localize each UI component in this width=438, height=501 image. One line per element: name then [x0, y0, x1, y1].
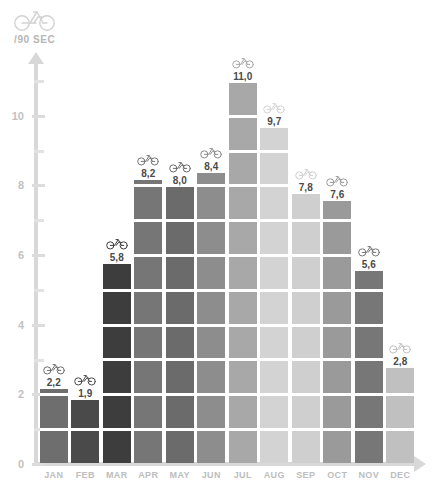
bar-column[interactable]: 5,6	[353, 62, 385, 466]
bar-segment	[323, 327, 351, 359]
bar-segment	[134, 396, 162, 428]
bar-segment	[260, 153, 288, 185]
bar-segment	[103, 264, 131, 289]
bar-segment	[166, 292, 194, 324]
bar-segment	[323, 257, 351, 289]
bar-value-label: 2,8	[393, 356, 407, 367]
bar-segment	[386, 368, 414, 393]
unit-label: /90 SEC	[12, 34, 58, 45]
bar-segment	[103, 292, 131, 324]
bicycle-icon	[358, 244, 380, 257]
bar-column[interactable]: 11,0	[227, 62, 259, 466]
bar[interactable]: 1,9	[71, 400, 99, 466]
bar-value-label: 7,8	[299, 182, 313, 193]
bar-segment	[166, 361, 194, 393]
bar-segment	[386, 431, 414, 463]
bar[interactable]: 11,0	[229, 83, 257, 466]
bar-segment	[292, 431, 320, 463]
bar-segment	[386, 396, 414, 428]
bar-segment	[323, 222, 351, 254]
bar-segment	[260, 222, 288, 254]
month-label: MAY	[164, 470, 196, 480]
y-tick-label: 4	[18, 319, 24, 331]
bicycle-icon	[106, 237, 128, 250]
bar[interactable]: 9,7	[260, 128, 288, 466]
bar-segment	[229, 153, 257, 185]
y-tick-label: 8	[18, 179, 24, 191]
bar-segment	[229, 327, 257, 359]
bar-segment	[355, 271, 383, 289]
bar[interactable]: 7,8	[292, 194, 320, 466]
bar[interactable]: 2,8	[386, 368, 414, 466]
month-label: SEP	[290, 470, 322, 480]
bar-segment	[355, 292, 383, 324]
bar-value-label: 2,2	[47, 377, 61, 388]
bar-segment	[229, 83, 257, 115]
bar-column[interactable]: 2,8	[385, 62, 417, 466]
bar-segment	[166, 396, 194, 428]
bar-column[interactable]: 5,8	[101, 62, 133, 466]
bar-segment	[229, 292, 257, 324]
bar-segment	[292, 257, 320, 289]
month-label: AUG	[259, 470, 291, 480]
bicycle-icon	[232, 56, 254, 69]
month-label: JUL	[227, 470, 259, 480]
bar[interactable]: 5,6	[355, 271, 383, 466]
bar-column[interactable]: 8,2	[133, 62, 165, 466]
bar-value-label: 8,4	[204, 161, 218, 172]
bar-segment	[134, 431, 162, 463]
bar-segment	[134, 327, 162, 359]
bar-segment	[229, 361, 257, 393]
bar-column[interactable]: 8,4	[196, 62, 228, 466]
bar-segment	[166, 257, 194, 289]
bar-column[interactable]: 7,8	[290, 62, 322, 466]
bar[interactable]: 2,2	[40, 389, 68, 466]
bar-segment	[40, 396, 68, 428]
bar-group: 2,21,95,88,28,08,411,09,77,87,65,62,8	[38, 62, 416, 466]
bar-segment	[197, 292, 225, 324]
bar-segment	[292, 396, 320, 428]
bar-column[interactable]: 8,0	[164, 62, 196, 466]
bar-segment	[40, 431, 68, 463]
bar[interactable]: 5,8	[103, 264, 131, 466]
bar-segment	[134, 222, 162, 254]
bar[interactable]: 8,2	[134, 180, 162, 466]
month-label: APR	[133, 470, 165, 480]
bar-segment	[134, 292, 162, 324]
bar-segment	[355, 361, 383, 393]
bar-segment	[260, 292, 288, 324]
bar-segment	[103, 396, 131, 428]
y-tick-label: 10	[12, 110, 24, 122]
bar-segment	[197, 327, 225, 359]
bar-value-label: 11,0	[233, 71, 252, 82]
month-label: JUN	[196, 470, 228, 480]
bar-segment	[197, 173, 225, 184]
bar-segment	[229, 222, 257, 254]
month-label: JAN	[38, 470, 70, 480]
bar-column[interactable]: 1,9	[70, 62, 102, 466]
bar-segment	[260, 361, 288, 393]
bar-segment	[355, 396, 383, 428]
bar-segment	[292, 327, 320, 359]
bar-segment	[197, 222, 225, 254]
bar-column[interactable]: 2,2	[38, 62, 70, 466]
bicycle-icon	[74, 373, 96, 386]
bar[interactable]: 8,0	[166, 187, 194, 466]
bar-segment	[323, 361, 351, 393]
bar-column[interactable]: 9,7	[259, 62, 291, 466]
chart-header: /90 SEC	[12, 4, 58, 45]
y-tick-label: 2	[18, 388, 24, 400]
bar-value-label: 9,7	[267, 116, 281, 127]
bar-segment	[197, 257, 225, 289]
bar[interactable]: 7,6	[323, 201, 351, 466]
bar-value-label: 8,0	[173, 175, 187, 186]
bar-segment	[134, 257, 162, 289]
bar-segment	[229, 257, 257, 289]
x-axis-labels: JANFEBMARAPRMAYJUNJULAUGSEPOCTNOVDEC	[38, 470, 416, 480]
bar[interactable]: 8,4	[197, 173, 225, 466]
bar-column[interactable]: 7,6	[322, 62, 354, 466]
bar-segment	[323, 396, 351, 428]
bar-segment	[103, 431, 131, 463]
bar-segment	[260, 431, 288, 463]
month-label: NOV	[353, 470, 385, 480]
